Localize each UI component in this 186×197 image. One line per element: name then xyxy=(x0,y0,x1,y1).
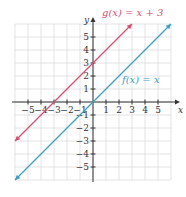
function-labels: g(x) = x + 3f(x) = x xyxy=(102,7,163,85)
y-tick-label: 5 xyxy=(83,32,89,42)
x-tick-label: −2 xyxy=(60,105,73,115)
coordinate-plane: xy −5−4−3−2−112345−5−4−3−2−112345 g(x) =… xyxy=(0,0,186,197)
y-tick-label: 4 xyxy=(83,45,89,55)
x-axis-label: x xyxy=(178,105,183,115)
y-tick-label: 1 xyxy=(83,84,89,94)
y-tick-label: −5 xyxy=(76,162,90,172)
y-axis-label: y xyxy=(83,15,90,25)
y-tick-label: −4 xyxy=(76,149,90,159)
x-tick-label: 1 xyxy=(103,105,109,115)
x-tick-label: 5 xyxy=(155,105,161,115)
g-function-label: g(x) = x + 3 xyxy=(102,7,163,18)
y-tick-label: 3 xyxy=(83,58,89,68)
x-tick-label: −5 xyxy=(21,105,35,115)
y-tick-label: −1 xyxy=(76,110,89,120)
x-tick-label: 3 xyxy=(129,105,135,115)
y-tick-label: −2 xyxy=(76,123,89,133)
g-line xyxy=(15,24,132,141)
x-tick-label: 4 xyxy=(142,105,148,115)
x-tick-label: 2 xyxy=(116,105,122,115)
y-axis-arrow-icon xyxy=(91,17,96,22)
f-function-label: f(x) = x xyxy=(121,74,160,85)
x-axis-arrow-icon xyxy=(175,100,180,105)
y-tick-label: −3 xyxy=(76,136,90,146)
